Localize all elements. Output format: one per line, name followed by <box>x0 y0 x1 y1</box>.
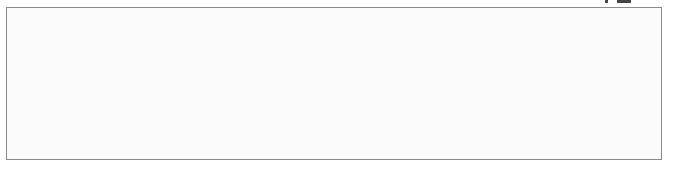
two-sigma-chart <box>252 0 427 125</box>
two-sigma-panel <box>252 0 452 170</box>
three-sigma-chart <box>453 0 628 125</box>
one-sigma-panel <box>51 0 251 170</box>
three-sigma-panel <box>453 0 653 170</box>
one-sigma-chart <box>51 0 226 125</box>
